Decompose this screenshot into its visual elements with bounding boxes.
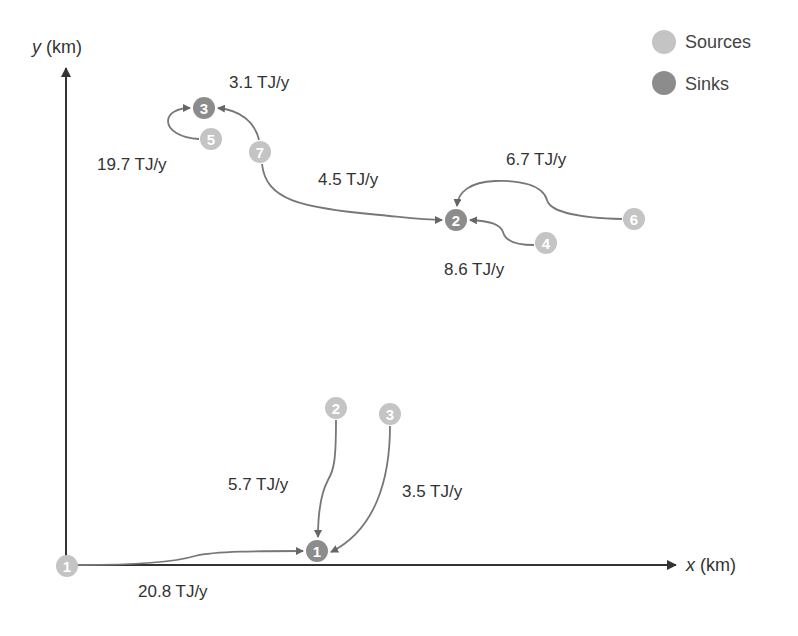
svg-text:1: 1 bbox=[313, 543, 321, 560]
svg-text:3: 3 bbox=[200, 100, 208, 117]
legend-item-sinks: Sinks bbox=[652, 71, 729, 95]
source-node-4: 4 bbox=[535, 232, 557, 254]
flow-edge-s2-k1 bbox=[318, 420, 336, 537]
sink-node-3: 3 bbox=[193, 97, 215, 119]
source-node-6: 6 bbox=[623, 208, 645, 230]
source-swatch-icon bbox=[652, 30, 676, 54]
flow-edge-s1-k1 bbox=[78, 551, 303, 565]
svg-text:1: 1 bbox=[63, 558, 71, 575]
legend-item-sources: Sources bbox=[652, 30, 751, 54]
flow-label: 4.5 TJ/y bbox=[318, 170, 379, 189]
svg-text:3: 3 bbox=[386, 406, 394, 423]
sink-node-1: 1 bbox=[306, 540, 328, 562]
svg-text:5: 5 bbox=[207, 131, 215, 148]
source-sink-diagram: y (km) x (km) 20.8 TJ/y 5.7 TJ/y 3.5 TJ/… bbox=[0, 0, 798, 636]
source-node-1: 1 bbox=[56, 555, 78, 577]
source-node-7: 7 bbox=[249, 141, 271, 163]
flow-edge-s6-k2 bbox=[457, 181, 622, 219]
sink-node-2: 2 bbox=[445, 209, 467, 231]
sink-swatch-icon bbox=[652, 71, 676, 95]
flow-label: 5.7 TJ/y bbox=[228, 475, 289, 494]
legend: Sources Sinks bbox=[652, 30, 751, 95]
flow-label: 3.5 TJ/y bbox=[402, 482, 463, 501]
flow-label: 8.6 TJ/y bbox=[444, 260, 505, 279]
legend-label: Sources bbox=[685, 32, 751, 52]
flow-edge-s3-k1 bbox=[331, 426, 390, 552]
x-axis-label: x (km) bbox=[685, 555, 736, 575]
svg-text:2: 2 bbox=[332, 400, 340, 417]
source-node-5: 5 bbox=[200, 128, 222, 150]
source-node-3: 3 bbox=[379, 403, 401, 425]
y-axis-label: y (km) bbox=[30, 37, 82, 57]
flow-label: 3.1 TJ/y bbox=[229, 73, 290, 92]
legend-label: Sinks bbox=[685, 74, 729, 94]
flow-edge-s7-k3 bbox=[218, 108, 259, 140]
source-node-2: 2 bbox=[325, 397, 347, 419]
svg-text:2: 2 bbox=[452, 212, 460, 229]
svg-text:4: 4 bbox=[542, 235, 551, 252]
flow-label: 19.7 TJ/y bbox=[97, 155, 167, 174]
flow-edge-s4-k2 bbox=[470, 220, 534, 245]
svg-text:6: 6 bbox=[630, 211, 638, 228]
flow-label: 6.7 TJ/y bbox=[506, 150, 567, 169]
flow-label: 20.8 TJ/y bbox=[138, 582, 208, 601]
svg-text:7: 7 bbox=[256, 144, 264, 161]
